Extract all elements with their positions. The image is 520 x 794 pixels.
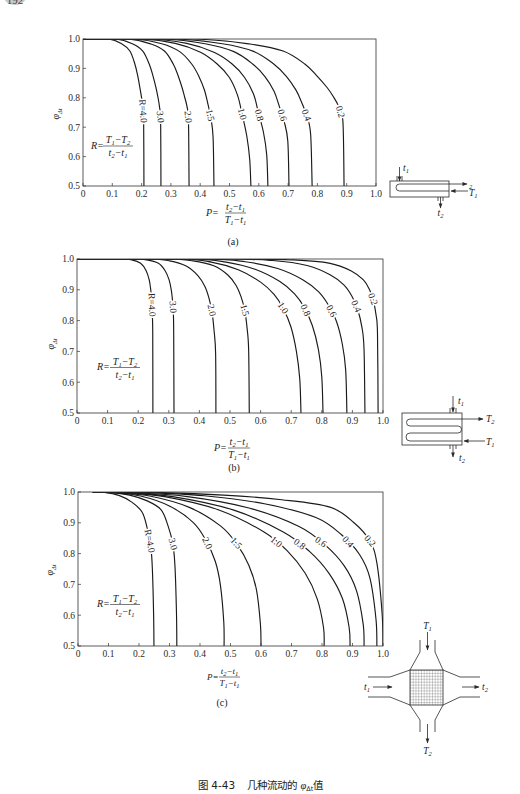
r-formula-numerator: T1−T2 [113,356,138,368]
y-tick-label: 0.7 [62,347,74,357]
y-tick-label: 0.8 [68,93,80,103]
curve-labels: R=4.03.02.01.51.00.80.60.40.2 [137,99,346,124]
p-formula-numerator: t2−t1 [226,201,245,213]
x-axis-formula: P= t2−t1 T1−t1 [213,436,250,461]
num-sub-2: 1 [235,670,238,677]
curve-label: 1.5 [228,535,244,551]
x-tick-label: 0.6 [253,189,265,199]
x-tick-label: 0.9 [341,189,353,199]
x-tick-label: 0.5 [224,189,236,199]
num-symbol-2: −t [236,436,246,447]
x-tick-label: 0.7 [282,189,294,199]
y-tick-label: 1.0 [63,487,75,497]
curve-r-2-0 [83,39,189,186]
label-sub: 2 [485,686,489,693]
T1-label: T1 [486,437,495,448]
serpentine-tube [406,419,462,441]
x-tick-label: 0 [81,189,86,199]
r-formula-lhs: R= [96,598,110,609]
y-tick-label: 0.5 [63,641,75,651]
curve-label: 0.8 [253,108,266,122]
plot-frame [77,259,383,413]
T2-label: T2 [423,746,432,757]
u-tube [396,184,449,191]
x-tick-label: 0.2 [133,649,145,659]
y-tick-label: 0.7 [63,580,75,590]
label-sub: 1 [491,441,494,448]
t1-label: t1 [403,163,409,174]
curve-label: 2.0 [182,111,193,124]
figure-page: 192 00.10.20.30.40.50.60.70.80.91.00.50.… [0,0,520,794]
figure-caption-text: 几种流动的 [247,779,300,791]
curve-label: 3.0 [168,301,179,314]
y-tick-label: 1.0 [68,34,80,44]
curve-r-2-0 [77,259,216,413]
den-sub-2: 1 [236,682,239,689]
x-tick-label: 0.8 [311,189,323,199]
x-tick-label: 0.1 [102,416,114,426]
exchanger-diagram-b: t1 T2 T1 t2 [402,396,495,464]
den-symbol-2: −t [115,147,125,158]
y-tick-label: 0.8 [63,549,75,559]
curve-label: 0.2 [334,105,347,119]
curve-label: 1.5 [204,108,216,122]
chart-c: 00.10.20.30.40.50.60.70.80.91.00.50.60.7… [44,487,389,709]
label-sub: 2 [429,750,433,757]
curve-label: 0.4 [300,108,314,123]
curve-label: 0.6 [324,304,338,319]
left-duct-bottom-wall [368,697,410,705]
bottom-duct-left-wall [410,705,420,732]
y-tick-label: 0.5 [62,408,74,418]
x-tick-label: 0 [75,416,80,426]
curve-r-3-0 [93,492,177,646]
r-formula-numerator: T1−T2 [113,593,138,605]
r-formula-denominator: t2−t1 [116,369,135,381]
curve-r-0-4 [77,259,365,413]
top-duct-right-wall [435,640,443,670]
p-formula-numerator: t2−t1 [221,666,239,677]
r-definition-formula: R= T1−T2 t2−t1 [96,593,140,618]
p-formula-lhs: P= [213,442,227,453]
curve-label: 1.0 [236,107,249,121]
x-axis: 00.10.20.30.40.50.60.70.80.91.0 [81,183,383,199]
page-number: 192 [7,0,24,6]
curve-label: 0.2 [362,533,378,549]
right-duct-bottom-wall [443,697,480,705]
label-sub: 1 [406,167,409,174]
x-tick-label: 0.4 [194,189,206,199]
T1-label: T1 [469,188,478,199]
label-sub: 2 [462,457,466,464]
curve-label: 0.4 [349,299,363,314]
exchanger-diagram-a: t1 2 T1 t2 [390,163,478,219]
curve-labels: R=4.03.02.01.51.00.80.60.40.2 [146,292,379,319]
plot-area: 00.10.20.30.40.50.60.70.80.91.00.50.60.7… [62,254,389,426]
x-axis: 00.10.20.30.40.50.60.70.80.91.0 [76,643,390,659]
x-tick-label: 0.3 [163,416,175,426]
shell-outline [390,181,449,197]
subfigure-caption: (c) [216,697,227,709]
den-symbol-2: −t [234,214,244,225]
r-formula-lhs: R= [90,140,104,151]
y-tick-label: 0.6 [62,378,74,388]
x-tick-label: 0.8 [316,416,328,426]
x-tick-label: 0.2 [132,416,144,426]
curve-r-4-0 [83,39,144,186]
curve-label: 0.2 [366,292,380,307]
curve-r-1-0 [77,259,301,413]
p-formula-denominator: T1−t1 [225,214,247,226]
y-tick-label: 0.9 [63,518,75,528]
den-sub-2: 1 [131,374,134,381]
plot-area: 00.10.20.30.40.50.60.70.80.91.00.50.60.7… [63,487,389,659]
y-tick-label: 1.0 [62,254,74,264]
T2-label: T2 [486,414,495,425]
y-axis-label: φΔt [44,564,57,575]
curve-r-0-6 [77,259,347,413]
plot-area: 00.10.20.30.40.50.60.70.80.91.00.50.60.7… [68,34,382,199]
y-axis-subscript: Δt [51,338,58,345]
figure-number: 图 4-43 [198,779,235,791]
r-formula-denominator: t2−t1 [116,606,135,618]
subfigure-caption: (a) [227,236,238,248]
left-duct-top-wall [368,670,410,677]
x-tick-label: 0.9 [347,649,359,659]
x-tick-label: 0.5 [225,649,237,659]
